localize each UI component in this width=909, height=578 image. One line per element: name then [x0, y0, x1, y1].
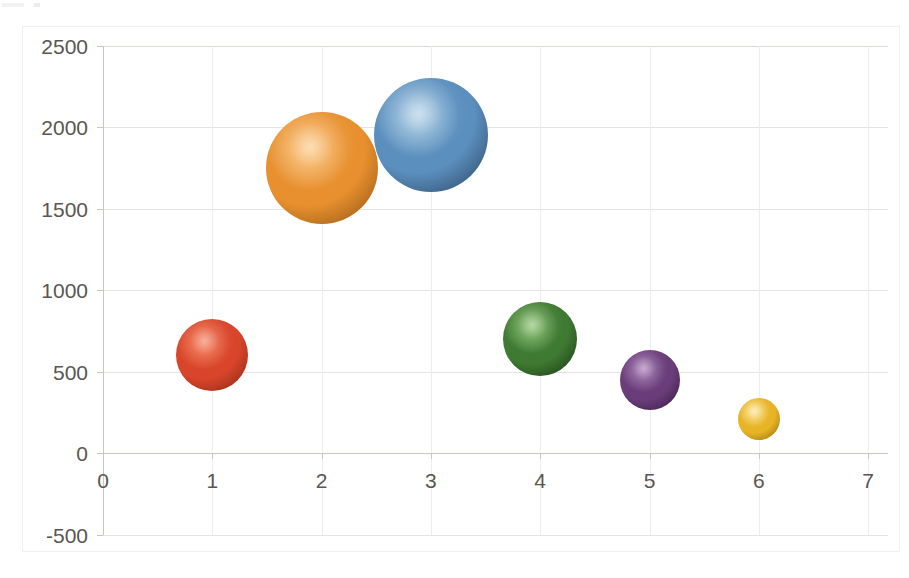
- x-tick-mark-5: [650, 453, 651, 459]
- gridline-y-1000: [103, 290, 888, 291]
- x-axis-tick-label: 5: [644, 470, 656, 491]
- bubble-blue[interactable]: [374, 78, 488, 192]
- gridline-x-1: [212, 46, 213, 535]
- y-tick-mark-2000: [97, 127, 103, 128]
- y-axis-tick-label: 500: [0, 361, 88, 382]
- y-axis-tick-label: 0: [0, 443, 88, 464]
- y-tick-mark-1000: [97, 290, 103, 291]
- x-axis-tick-label: 6: [753, 470, 765, 491]
- bubble-green[interactable]: [503, 302, 577, 376]
- bubble-specular-highlight: [176, 319, 248, 391]
- x-tick-mark-7: [868, 453, 869, 459]
- y-tick-mark-500: [97, 372, 103, 373]
- x-axis-tick-label: 7: [862, 470, 874, 491]
- gridline-x-5: [650, 46, 651, 535]
- y-axis-tick-label: 2500: [0, 35, 88, 56]
- y-tick-mark--500: [97, 535, 103, 536]
- bubble-specular-highlight: [374, 78, 488, 192]
- bubble-red[interactable]: [176, 319, 248, 391]
- gridline-x-6: [759, 46, 760, 535]
- bubble-chart-screenshot: 25002000150010005000-50001234567: [0, 0, 909, 578]
- gridline-x-7: [868, 46, 869, 535]
- y-tick-mark-2500: [97, 46, 103, 47]
- x-tick-mark-1: [212, 453, 213, 459]
- x-tick-mark-6: [759, 453, 760, 459]
- y-axis-tick-label: 1500: [0, 198, 88, 219]
- gridline-y-1500: [103, 209, 888, 210]
- bubble-yellow[interactable]: [738, 398, 780, 440]
- gridline-x-4: [540, 46, 541, 535]
- y-axis-tick-label: -500: [0, 524, 88, 545]
- bubble-specular-highlight: [503, 302, 577, 376]
- gridline-y--500: [103, 535, 888, 536]
- plot-area: 25002000150010005000-50001234567: [0, 0, 909, 578]
- bubble-specular-highlight: [266, 112, 378, 224]
- bubble-purple[interactable]: [620, 350, 680, 410]
- x-tick-mark-2: [322, 453, 323, 459]
- gridline-y-2500: [103, 46, 888, 47]
- x-axis-tick-label: 4: [534, 470, 546, 491]
- x-axis-tick-label: 3: [425, 470, 437, 491]
- y-axis-tick-label: 2000: [0, 117, 88, 138]
- bubble-orange[interactable]: [266, 112, 378, 224]
- x-tick-mark-4: [540, 453, 541, 459]
- bubble-specular-highlight: [738, 398, 780, 440]
- x-axis-tick-label: 0: [97, 470, 109, 491]
- x-axis-tick-label: 1: [206, 470, 218, 491]
- y-axis-line: [103, 46, 104, 535]
- gridline-y-0: [103, 453, 888, 454]
- y-tick-mark-1500: [97, 209, 103, 210]
- gridline-y-2000: [103, 127, 888, 128]
- x-tick-mark-3: [431, 453, 432, 459]
- x-axis-tick-label: 2: [316, 470, 328, 491]
- y-axis-tick-label: 1000: [0, 280, 88, 301]
- x-tick-mark-0: [103, 453, 104, 459]
- bubble-specular-highlight: [620, 350, 680, 410]
